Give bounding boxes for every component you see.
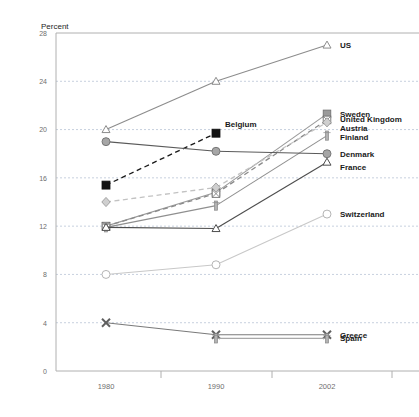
y-tick-label: 12 (39, 223, 47, 230)
x-tick-label: 1980 (98, 382, 115, 391)
x-tick-label: 1990 (208, 382, 225, 391)
chart-background (0, 0, 419, 417)
legend-label-finland: Finland (340, 133, 369, 142)
chart-container: 0481216202428 198019902002 Percent USSwe… (0, 0, 419, 417)
line-chart: 0481216202428 198019902002 Percent USSwe… (0, 0, 419, 417)
y-tick-label: 8 (43, 271, 47, 278)
annotation-label-belgium: Belgium (225, 120, 257, 129)
y-tick-label: 24 (39, 78, 47, 85)
legend-label-switzerland: Switzerland (340, 210, 385, 219)
legend-label-france: France (340, 163, 367, 172)
legend-label-us: US (340, 41, 352, 50)
data-point-marker (212, 261, 220, 269)
data-point-marker (323, 210, 331, 218)
data-point-marker (102, 270, 110, 278)
legend-label-spain: Spain (340, 334, 362, 343)
x-tick-label: 2002 (319, 382, 336, 391)
y-tick-label: 4 (43, 320, 47, 327)
legend-label-united-kingdom: United Kingdom (340, 115, 402, 124)
data-point-marker (102, 138, 110, 146)
legend-label-denmark: Denmark (340, 150, 375, 159)
inline-annotations: Belgium (225, 120, 257, 129)
y-tick-label: 16 (39, 175, 47, 182)
data-point-marker (212, 147, 220, 155)
y-tick-label: 0 (43, 368, 47, 375)
y-axis-title: Percent (41, 22, 69, 31)
data-point-marker (102, 181, 110, 189)
data-point-marker (323, 150, 331, 158)
y-tick-label: 20 (39, 126, 47, 133)
data-point-marker (212, 129, 220, 137)
